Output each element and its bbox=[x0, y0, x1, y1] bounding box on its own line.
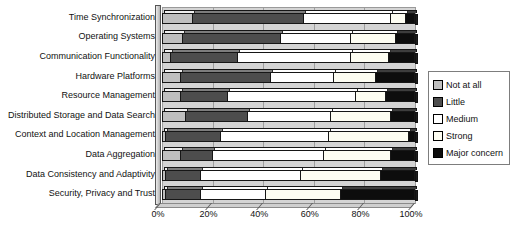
bar-segment-medium bbox=[281, 34, 351, 43]
chart-row-distributed-storage-and-data-search: Distributed Storage and Data Search bbox=[0, 105, 420, 125]
bar-segment-major-concern bbox=[391, 151, 414, 160]
legend-label: Little bbox=[446, 97, 465, 107]
chart-row-communication-functionality: Communication Functionality bbox=[0, 46, 420, 66]
bar-segment-major-concern bbox=[381, 171, 414, 180]
stacked-bar bbox=[162, 111, 415, 122]
bar-segment-not-at-all bbox=[163, 14, 193, 23]
bar-segment-little bbox=[166, 132, 221, 141]
x-tick-label: 20% bbox=[200, 209, 218, 219]
legend-item-not-at-all: Not at all bbox=[433, 76, 506, 93]
bar-segment-major-concern bbox=[389, 53, 414, 62]
bar-segment-major-concern bbox=[341, 190, 414, 199]
x-tick-label: 100% bbox=[399, 209, 422, 219]
bar-track bbox=[162, 69, 415, 83]
bar-segment-little bbox=[186, 112, 249, 121]
bar-3d-end-cap bbox=[415, 112, 418, 123]
stacked-bar bbox=[162, 150, 415, 161]
bar-segment-major-concern bbox=[391, 112, 414, 121]
legend-swatch-not-at-all bbox=[433, 80, 443, 90]
category-label: Distributed Storage and Data Search bbox=[0, 105, 155, 125]
stacked-bar bbox=[162, 91, 415, 102]
legend-item-major-concern: Major concern bbox=[433, 144, 506, 161]
legend-label: Strong bbox=[446, 131, 473, 141]
chart-row-operating-systems: Operating Systems bbox=[0, 27, 420, 47]
bar-track bbox=[162, 108, 415, 122]
category-label: Time Synchronization bbox=[0, 7, 155, 27]
x-axis-labels: 0%20%40%60%80%100% bbox=[162, 209, 415, 221]
legend-label: Major concern bbox=[446, 148, 503, 158]
bar-segment-major-concern bbox=[406, 14, 414, 23]
survey-stacked-bar-chart: Time SynchronizationOperating SystemsCom… bbox=[0, 0, 515, 226]
chart-row-time-synchronization: Time Synchronization bbox=[0, 7, 420, 27]
bar-segment-strong bbox=[301, 171, 381, 180]
bar-segment-major-concern bbox=[386, 92, 414, 101]
chart-row-data-consistency-and-adaptivity: Data Consistency and Adaptivity bbox=[0, 164, 420, 184]
bar-segment-not-at-all bbox=[163, 73, 181, 82]
stacked-bar bbox=[162, 33, 415, 44]
x-tick-label: 60% bbox=[301, 209, 319, 219]
category-label: Operating Systems bbox=[0, 27, 155, 47]
bar-segment-little bbox=[183, 34, 281, 43]
x-tick-label: 80% bbox=[351, 209, 369, 219]
bar-track bbox=[162, 10, 415, 24]
x-tick-label: 0% bbox=[151, 209, 164, 219]
bar-segment-medium bbox=[221, 132, 329, 141]
bar-segment-medium bbox=[201, 190, 266, 199]
bar-segment-strong bbox=[329, 132, 409, 141]
stacked-bar bbox=[162, 72, 415, 83]
x-tick-label: 40% bbox=[250, 209, 268, 219]
legend-swatch-major-concern bbox=[433, 148, 443, 158]
category-label: Hardware Platforms bbox=[0, 66, 155, 86]
bar-segment-little bbox=[181, 151, 214, 160]
stacked-bar bbox=[162, 52, 415, 63]
bar-segment-little bbox=[166, 171, 201, 180]
legend: Not at allLittleMediumStrongMajor concer… bbox=[428, 71, 510, 165]
category-label: Resource Management bbox=[0, 85, 155, 105]
bar-segment-medium bbox=[238, 53, 351, 62]
bar-segment-medium bbox=[271, 73, 334, 82]
legend-swatch-little bbox=[433, 97, 443, 107]
bar-3d-end-cap bbox=[415, 53, 418, 64]
bar-3d-end-cap bbox=[415, 132, 418, 143]
category-label: Context and Location Management bbox=[0, 125, 155, 145]
bar-3d-end-cap bbox=[415, 73, 418, 84]
bar-segment-medium bbox=[304, 14, 392, 23]
bar-segment-little bbox=[181, 73, 271, 82]
bar-segment-little bbox=[181, 92, 229, 101]
bar-segment-medium bbox=[228, 92, 356, 101]
bar-3d-end-cap bbox=[415, 34, 418, 45]
chart-row-data-aggregation: Data Aggregation bbox=[0, 144, 420, 164]
legend-item-little: Little bbox=[433, 93, 506, 110]
bar-segment-strong bbox=[351, 34, 396, 43]
bar-track bbox=[162, 128, 415, 142]
bar-segment-major-concern bbox=[396, 34, 414, 43]
bar-track bbox=[162, 49, 415, 63]
bar-segment-strong bbox=[266, 190, 341, 199]
chart-rows: Time SynchronizationOperating SystemsCom… bbox=[0, 7, 420, 203]
bar-segment-little bbox=[171, 53, 239, 62]
legend-item-medium: Medium bbox=[433, 110, 506, 127]
legend-label: Not at all bbox=[446, 80, 482, 90]
bar-3d-end-cap bbox=[415, 14, 418, 25]
bar-segment-not-at-all bbox=[163, 53, 171, 62]
bar-segment-medium bbox=[213, 151, 323, 160]
bar-segment-not-at-all bbox=[163, 92, 181, 101]
bar-segment-little bbox=[193, 14, 303, 23]
bar-track bbox=[162, 186, 415, 200]
chart-row-resource-management: Resource Management bbox=[0, 85, 420, 105]
bar-segment-major-concern bbox=[409, 132, 414, 141]
axis-floor bbox=[155, 203, 415, 208]
bar-segment-medium bbox=[248, 112, 331, 121]
legend-item-strong: Strong bbox=[433, 127, 506, 144]
bar-track bbox=[162, 147, 415, 161]
bar-segment-strong bbox=[391, 14, 406, 23]
bar-track bbox=[162, 30, 415, 44]
bar-segment-strong bbox=[356, 92, 386, 101]
chart-row-hardware-platforms: Hardware Platforms bbox=[0, 66, 420, 86]
chart-row-security-privacy-and-trust: Security, Privacy and Trust bbox=[0, 183, 420, 203]
stacked-bar bbox=[162, 170, 415, 181]
bar-segment-major-concern bbox=[376, 73, 414, 82]
bar-segment-not-at-all bbox=[163, 151, 181, 160]
chart-row-context-and-location-management: Context and Location Management bbox=[0, 125, 420, 145]
bar-segment-strong bbox=[324, 151, 392, 160]
